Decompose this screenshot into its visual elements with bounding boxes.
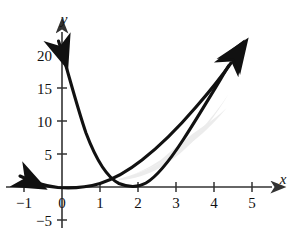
y-tick-label--5: −5 <box>36 213 52 229</box>
x-axis-label: x <box>279 171 287 187</box>
y-tick-label-5: 5 <box>45 147 53 163</box>
coordinate-plane: −1 0 1 2 3 4 5 20 15 10 5 −5 x y <box>0 0 299 250</box>
x-tick-label-0: 0 <box>58 195 66 211</box>
x-tick-label-1: 1 <box>96 195 104 211</box>
y-tick-label-10: 10 <box>37 114 52 130</box>
x-tick-label-5: 5 <box>248 195 256 211</box>
y-axis-label: y <box>59 11 68 27</box>
graph-figure: −1 0 1 2 3 4 5 20 15 10 5 −5 x y <box>0 0 299 250</box>
x-tick-label--1: −1 <box>16 195 32 211</box>
x-tick-label-2: 2 <box>134 195 142 211</box>
shaded-region <box>119 94 229 180</box>
y-tick-label-15: 15 <box>37 81 52 97</box>
x-tick-label-3: 3 <box>172 195 180 211</box>
curve-steep-parabola <box>59 41 229 187</box>
x-tick-label-4: 4 <box>210 195 218 211</box>
y-tick-label-20: 20 <box>37 48 52 64</box>
